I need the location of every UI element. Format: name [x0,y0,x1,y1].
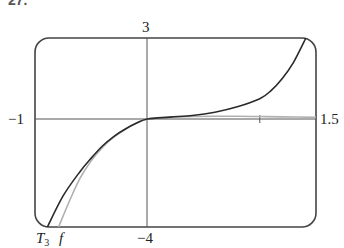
t3-curve [47,38,306,227]
y-max-label: 3 [142,20,150,35]
t3-label: T3 [36,231,49,246]
f-curve [59,116,316,227]
plot-frame [35,38,316,227]
x-min-label: −1 [8,112,24,127]
x-max-label: 1.5 [320,112,339,127]
f-label: f [59,231,63,246]
y-min-label: −4 [137,231,153,246]
plot-area [0,0,344,248]
